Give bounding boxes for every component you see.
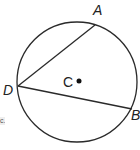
chord-db: [18, 86, 132, 109]
label-c: C: [63, 74, 73, 90]
label-a: A: [92, 2, 102, 18]
center-point: [77, 79, 82, 84]
chord-da: [18, 25, 95, 86]
edge-fragment: c.: [0, 117, 5, 125]
circle-diagram: A D B C: [0, 0, 140, 150]
label-d: D: [3, 82, 13, 98]
label-b: B: [131, 107, 140, 123]
